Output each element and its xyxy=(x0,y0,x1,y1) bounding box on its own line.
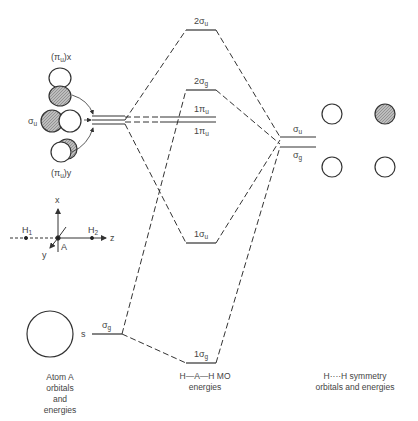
s-sigma-g-label: σg xyxy=(102,320,112,332)
h1-label: H1 xyxy=(22,225,33,236)
pi-uy-label: (πu)y xyxy=(51,168,72,179)
s-orbital-icon xyxy=(27,311,73,357)
hh-caption: H····H symmetry orbitals and energies xyxy=(300,371,410,393)
mo-label-1sigma-u: 1σu xyxy=(194,229,209,240)
s-label: s xyxy=(81,329,86,339)
sigma-u-label: σu xyxy=(28,116,38,127)
mo-label-1sigma-g: 1σg xyxy=(194,349,209,361)
mo-label-1pi-u-a: 1πu xyxy=(194,104,209,115)
mo-caption: H—A—H MO energies xyxy=(160,371,250,393)
hh-label-sigma-u: σu xyxy=(293,124,303,135)
axis-z-label: z xyxy=(110,233,115,243)
mo-label-2sigma-g: 2σg xyxy=(194,76,209,88)
pi-uy-orbital-icon xyxy=(51,139,77,162)
axis-x-label: x xyxy=(55,195,60,205)
hh-sigma-u-left-orbital-icon xyxy=(322,104,342,124)
mo-label-2sigma-u: 2σu xyxy=(194,16,209,27)
hh-sigma-u-right-orbital-icon xyxy=(375,104,395,124)
hh-label-sigma-g: σg xyxy=(293,150,303,162)
atom-a-p-level xyxy=(92,116,125,124)
atom-a-caption: Atom A orbitals and energies xyxy=(30,372,90,416)
mo-label-1pi-u-b: 1πu xyxy=(194,126,209,137)
pi-ux-orbital-icon xyxy=(49,68,71,106)
hh-sigma-g-right-orbital-icon xyxy=(375,157,395,177)
h2-label: H2 xyxy=(88,225,99,236)
hh-sigma-g-left-orbital-icon xyxy=(322,157,342,177)
atom-a-center-label: A xyxy=(61,242,67,252)
sigma-u-orbital-icon xyxy=(41,110,81,132)
pi-ux-label: (πu)x xyxy=(51,52,72,63)
mo-diagram: (πu)x σu (πu)y x z y H1 H2 A s σg 2σu 2σ… xyxy=(0,0,418,421)
axis-y-label: y xyxy=(42,250,47,260)
